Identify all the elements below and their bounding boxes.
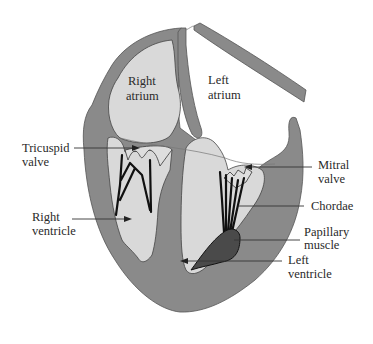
label-tricuspid-1: Tricuspid [22,141,70,155]
atrial-roof-wall [178,28,202,138]
label-right-atrium-1: Right [128,74,156,88]
label-right-atrium-2: atrium [126,89,159,103]
label-right-ventricle-1: Right [32,210,60,224]
label-papillary-1: Papillary [304,225,350,239]
label-chordae: Chordae [311,199,354,213]
label-right-ventricle-2: ventricle [32,224,76,238]
heart-diagram: Right atrium Left atrium Tricuspid valve… [0,0,373,344]
label-left-atrium-2: atrium [208,88,241,102]
label-mitral-2: valve [318,172,346,186]
label-left-atrium-1: Left [208,73,229,87]
label-tricuspid-2: valve [22,155,50,169]
label-mitral-1: Mitral [318,158,350,172]
label-papillary-2: muscle [304,238,340,252]
label-left-ventricle-1: Left [288,253,309,267]
atrial-roof-connector [186,26,194,30]
label-left-ventricle-2: ventricle [288,267,332,281]
